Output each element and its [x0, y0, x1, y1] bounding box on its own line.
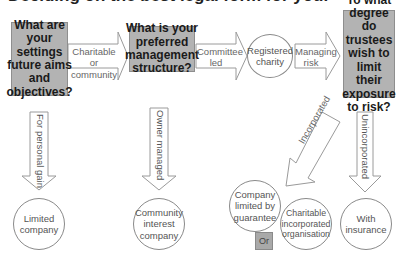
outcome-charitable-incorporated-organisation: Charitable incorporated organisation: [280, 198, 332, 250]
arrow-label-managing-risk: Managing risk: [295, 46, 327, 69]
arrow-label-committee: Committee led: [197, 46, 235, 69]
arrow-label-owner-managed: Owner managed: [155, 110, 166, 180]
question-box-risk: To what degree do trustees wish to limit…: [343, 10, 395, 98]
question-box-management: What is your preferred management struct…: [129, 26, 195, 72]
outcome-limited-company: Limited company: [13, 198, 65, 250]
arrow-label-charitable: Charitable or community: [70, 46, 118, 80]
question-box-aims: What are your settings future aims and o…: [11, 22, 68, 96]
arrow-label-unincorporated: Unincorporated: [360, 114, 371, 179]
outcome-registered-charity: Registered charity: [247, 34, 293, 78]
outcome-community-interest-company: Community interest company: [133, 198, 185, 250]
outcome-company-limited-by-guarantee: Company limited by guarantee: [229, 180, 281, 232]
outcome-with-insurance: With insurance: [340, 198, 392, 250]
arrow-label-personal-gain: For personal gain: [35, 114, 46, 188]
or-badge: Or: [255, 232, 273, 250]
